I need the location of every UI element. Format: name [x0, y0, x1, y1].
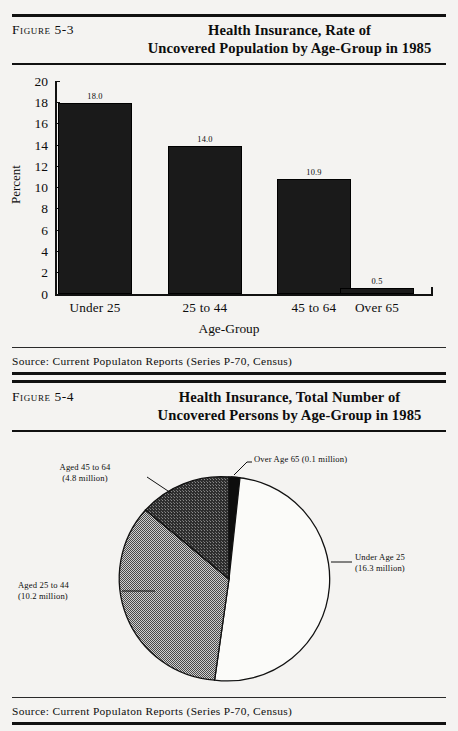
- pie-label-over-age-65-line1: Over Age 65 (0.1 million): [254, 454, 347, 465]
- figure1-title-line1: Health Insurance, Rate of: [135, 22, 444, 40]
- bar-chart: Percent 20 18 16 14 12 10 8 6 4 2 0 1: [0, 72, 458, 334]
- figure1-source: Source: Current Populaton Reports (Serie…: [12, 355, 292, 367]
- bar-value-45-to-64: 10.9: [277, 168, 351, 177]
- leader-line-over-age-65: [234, 462, 252, 475]
- x-category-over-65: Over 65: [332, 300, 422, 316]
- figure1-label: Figure 5-3: [0, 22, 135, 38]
- document-page: Figure 5-3 Health Insurance, Rate of Unc…: [0, 0, 458, 731]
- figure2-title-line2: Uncovered Persons by Age-Group in 1985: [135, 407, 444, 425]
- y-tick-label-10: 10: [22, 181, 48, 195]
- figure1-header: Figure 5-3 Health Insurance, Rate of Unc…: [0, 22, 458, 57]
- figure2-label: Figure 5-4: [0, 389, 135, 405]
- figure1-header-bottom-rule: [12, 63, 446, 65]
- figure2-source-bottom-rule: [12, 722, 446, 725]
- y-tick-label-0: 0: [22, 288, 48, 302]
- bar-25-to-44: [168, 146, 242, 294]
- figure2-header: Figure 5-4 Health Insurance, Total Numbe…: [0, 389, 458, 424]
- x-axis-line: [55, 294, 433, 296]
- pie-label-under-age-25: Under Age 25 (16.3 million): [355, 552, 405, 573]
- pie-label-aged-45-to-64: Aged 45 to 64 (4.8 million): [26, 462, 144, 483]
- x-axis-end-tick: [431, 287, 433, 295]
- leader-line-aged-45-to-64: [147, 477, 171, 493]
- pie-chart: Over Age 65 (0.1 million) Aged 45 to 64 …: [0, 440, 458, 692]
- figure1-number: 5-3: [55, 22, 75, 37]
- bar-value-under-25: 18.0: [58, 92, 132, 101]
- y-tick-label-2: 2: [22, 266, 48, 280]
- figure2-label-word: Figure: [12, 389, 51, 404]
- bar-under-25: [58, 103, 132, 294]
- y-tick-label-8: 8: [22, 202, 48, 216]
- y-tick-label-4: 4: [22, 245, 48, 259]
- bar-chart-x-axis-label: Age-Group: [0, 321, 458, 337]
- y-tick-label-12: 12: [22, 160, 48, 174]
- bar-value-25-to-44: 14.0: [168, 135, 242, 144]
- y-tick-label-18: 18: [22, 96, 48, 110]
- figure1-title-line2: Uncovered Population by Age-Group in 198…: [135, 40, 444, 58]
- y-tick-label-6: 6: [22, 224, 48, 238]
- pie-label-aged-25-to-44-line1: Aged 25 to 44: [18, 580, 118, 591]
- pie-label-under-age-25-line2: (16.3 million): [355, 563, 405, 574]
- pie-label-aged-25-to-44: Aged 25 to 44 (10.2 million): [18, 580, 118, 601]
- figure1-top-rule: [12, 14, 446, 17]
- pie-label-aged-45-to-64-line1: Aged 45 to 64: [26, 462, 144, 473]
- y-tick-label-16: 16: [22, 117, 48, 131]
- figure2-title-line1: Health Insurance, Total Number of: [135, 389, 444, 407]
- y-tick-mark-20: [55, 81, 60, 82]
- pie-label-aged-45-to-64-line2: (4.8 million): [26, 473, 144, 484]
- figure2-title: Health Insurance, Total Number of Uncove…: [135, 389, 458, 424]
- figure1-label-word: Figure: [12, 22, 51, 37]
- y-axis-line: [55, 81, 57, 295]
- pie-label-under-age-25-line1: Under Age 25: [355, 552, 405, 563]
- figure2-top-rule: [12, 380, 446, 383]
- bar-over-65: [340, 288, 414, 294]
- bar-value-over-65: 0.5: [340, 277, 414, 286]
- figure1-source-top-rule: [12, 347, 446, 348]
- x-category-25-to-44: 25 to 44: [160, 300, 250, 316]
- figure1-title: Health Insurance, Rate of Uncovered Popu…: [135, 22, 458, 57]
- y-tick-label-14: 14: [22, 139, 48, 153]
- pie-label-over-age-65: Over Age 65 (0.1 million): [254, 454, 347, 465]
- figure2-source-top-rule: [12, 697, 446, 698]
- y-tick-label-20: 20: [22, 75, 48, 89]
- figure1-source-bottom-rule: [12, 372, 446, 375]
- figure2-header-bottom-rule: [12, 430, 446, 432]
- pie-label-aged-25-to-44-line2: (10.2 million): [18, 591, 118, 602]
- figure2-source: Source: Current Populaton Reports (Serie…: [12, 705, 292, 717]
- figure2-number: 5-4: [55, 389, 75, 404]
- x-category-under-25: Under 25: [50, 300, 140, 316]
